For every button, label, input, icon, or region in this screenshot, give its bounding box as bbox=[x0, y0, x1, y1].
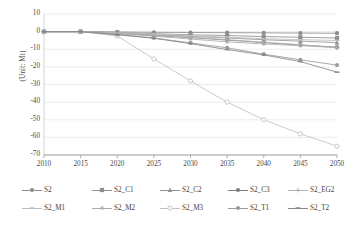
legend-marker-glyph bbox=[92, 203, 112, 213]
data-point-marker bbox=[298, 31, 302, 35]
data-point-marker bbox=[30, 188, 34, 192]
data-point-marker bbox=[225, 49, 230, 50]
legend-label: S2 bbox=[44, 185, 52, 195]
data-point-marker bbox=[225, 100, 229, 104]
legend-item-s2-t2[interactable]: S2_T2 bbox=[288, 199, 329, 217]
data-point-marker bbox=[188, 79, 192, 83]
line-chart: (Unit: Mt) 100-10-20-30-40-50-60-70 2010… bbox=[0, 0, 350, 232]
legend-marker-icon bbox=[288, 203, 308, 213]
legend-row-1: S2S2_C1S2_C2S2_C3S2_EG2 bbox=[0, 181, 350, 199]
data-point-marker bbox=[335, 144, 339, 148]
legend-marker-glyph bbox=[22, 203, 42, 213]
legend-label: S2_EG2 bbox=[310, 185, 334, 195]
data-point-marker bbox=[115, 34, 120, 35]
data-point-marker bbox=[335, 40, 340, 41]
data-point-marker bbox=[298, 44, 302, 48]
data-point-marker bbox=[168, 188, 173, 193]
data-point-marker bbox=[298, 39, 303, 40]
data-point-marker bbox=[225, 37, 230, 38]
legend-marker-icon bbox=[228, 185, 248, 195]
data-point-marker bbox=[298, 132, 302, 136]
legend-marker-glyph bbox=[228, 203, 248, 213]
legend-marker-icon bbox=[160, 185, 180, 195]
legend-marker-icon bbox=[22, 185, 42, 195]
legend-marker-glyph bbox=[288, 185, 308, 195]
data-point-marker bbox=[225, 40, 229, 44]
legend-item-s2-t1[interactable]: S2_T1 bbox=[228, 199, 269, 217]
chart-legend: S2S2_C1S2_C2S2_C3S2_EG2 S2_M1S2_M2S2_M3S… bbox=[0, 181, 350, 229]
legend-marker-icon bbox=[22, 203, 42, 213]
data-point-marker bbox=[295, 187, 300, 192]
legend-marker-glyph bbox=[92, 185, 112, 195]
data-point-marker bbox=[236, 188, 240, 192]
legend-label: S2_T1 bbox=[250, 203, 269, 213]
legend-label: S2_C2 bbox=[182, 185, 202, 195]
data-point-marker bbox=[188, 43, 193, 44]
legend-marker-icon bbox=[288, 185, 308, 195]
legend-marker-icon bbox=[160, 203, 180, 213]
data-point-marker bbox=[335, 71, 340, 72]
data-point-marker bbox=[42, 31, 47, 32]
legend-item-s2-m2[interactable]: S2_M2 bbox=[92, 199, 135, 217]
data-point-marker bbox=[100, 206, 104, 210]
data-point-marker bbox=[335, 36, 339, 40]
data-point-marker bbox=[262, 31, 266, 35]
data-point-marker bbox=[188, 41, 192, 45]
data-point-marker bbox=[261, 54, 266, 55]
plot-area bbox=[0, 0, 350, 180]
data-point-marker bbox=[152, 57, 156, 61]
legend-marker-glyph bbox=[22, 185, 42, 195]
legend-label: S2_C3 bbox=[250, 185, 270, 195]
legend-marker-glyph bbox=[160, 185, 180, 195]
legend-label: S2_C1 bbox=[114, 185, 134, 195]
data-point-marker bbox=[296, 207, 301, 208]
legend-marker-icon bbox=[228, 203, 248, 213]
data-point-marker bbox=[100, 188, 104, 192]
data-point-marker bbox=[151, 38, 156, 39]
legend-label: S2_T2 bbox=[310, 203, 329, 213]
legend-marker-glyph bbox=[228, 185, 248, 195]
legend-item-s2-c3[interactable]: S2_C3 bbox=[228, 181, 270, 199]
legend-marker-icon bbox=[92, 203, 112, 213]
data-point-marker bbox=[262, 42, 266, 46]
legend-item-s2-m1[interactable]: S2_M1 bbox=[22, 199, 65, 217]
data-point-marker bbox=[335, 63, 339, 67]
data-point-marker bbox=[298, 61, 303, 62]
legend-row-2: S2_M1S2_M2S2_M3S2_T1S2_T2 bbox=[0, 199, 350, 217]
data-point-marker bbox=[262, 118, 266, 122]
legend-marker-glyph bbox=[160, 203, 180, 213]
data-point-marker bbox=[168, 206, 172, 210]
legend-label: S2_M2 bbox=[114, 203, 135, 213]
legend-item-s2-c1[interactable]: S2_C1 bbox=[92, 181, 134, 199]
series-line bbox=[44, 32, 337, 147]
legend-label: S2_M1 bbox=[44, 203, 65, 213]
legend-item-s2-eg2[interactable]: S2_EG2 bbox=[288, 181, 334, 199]
data-point-marker bbox=[188, 35, 193, 36]
series-S2_M3 bbox=[42, 30, 339, 149]
data-point-marker bbox=[30, 207, 35, 208]
legend-item-s2-m3[interactable]: S2_M3 bbox=[160, 199, 203, 217]
data-point-marker bbox=[261, 38, 266, 39]
data-point-marker bbox=[335, 31, 339, 35]
data-point-marker bbox=[188, 37, 192, 41]
legend-marker-glyph bbox=[288, 203, 308, 213]
legend-item-s2-c2[interactable]: S2_C2 bbox=[160, 181, 202, 199]
data-point-marker bbox=[335, 45, 339, 49]
legend-label: S2_M3 bbox=[182, 203, 203, 213]
data-point-marker bbox=[262, 52, 266, 56]
data-point-marker bbox=[236, 206, 240, 210]
data-point-marker bbox=[78, 31, 83, 32]
legend-item-s2[interactable]: S2 bbox=[22, 181, 52, 199]
legend-marker-icon bbox=[92, 185, 112, 195]
